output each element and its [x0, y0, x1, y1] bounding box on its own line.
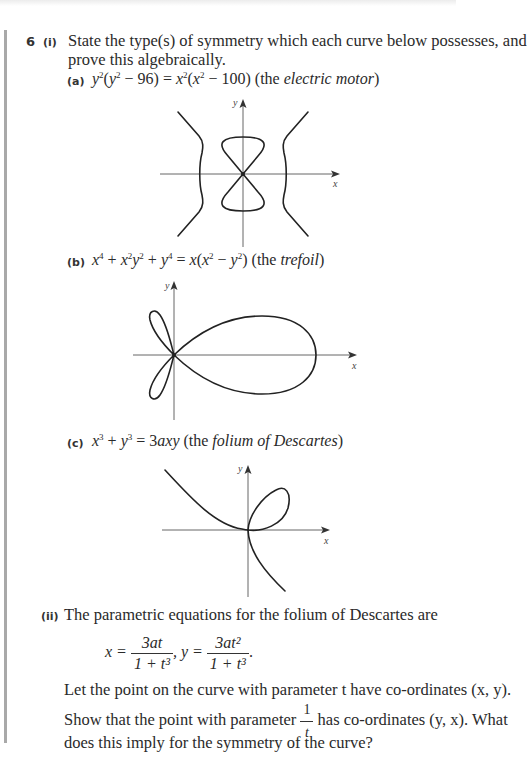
part-ii-label: (ii): [41, 610, 59, 623]
eq-end: .: [249, 643, 253, 660]
part-ii-intro: The parametric equations for the folium …: [64, 605, 438, 625]
eq-y-fraction: 3at² 1 + t³: [207, 634, 249, 673]
eq-y-numerator: 3at²: [215, 634, 240, 651]
eq-x-fraction: 3at 1 + t³: [131, 634, 173, 673]
eq-x-lhs: x =: [105, 643, 127, 660]
eq-x-denominator: 1 + t³: [134, 655, 170, 672]
parametric-equations: x = 3at 1 + t³ , y = 3at² 1 + t³ .: [105, 634, 253, 673]
part-ii-line3: does this imply for the symmetry of the …: [64, 733, 373, 753]
eq-separator: , y =: [173, 643, 203, 660]
graph-c-y-label: y: [237, 463, 243, 474]
graph-c-x-label: x: [323, 535, 329, 546]
eq-x-numerator: 3at: [142, 634, 162, 651]
part-ii-line2-post: has co-ordinates (y, x). What: [318, 710, 508, 729]
part-ii-line2-pre: Show that the point with parameter: [64, 710, 296, 729]
frac-numerator: 1: [300, 700, 313, 722]
graph-c-curve: [165, 470, 289, 591]
part-ii-line1: Let the point on the curve with paramete…: [64, 680, 511, 700]
eq-y-denominator: 1 + t³: [210, 655, 246, 672]
